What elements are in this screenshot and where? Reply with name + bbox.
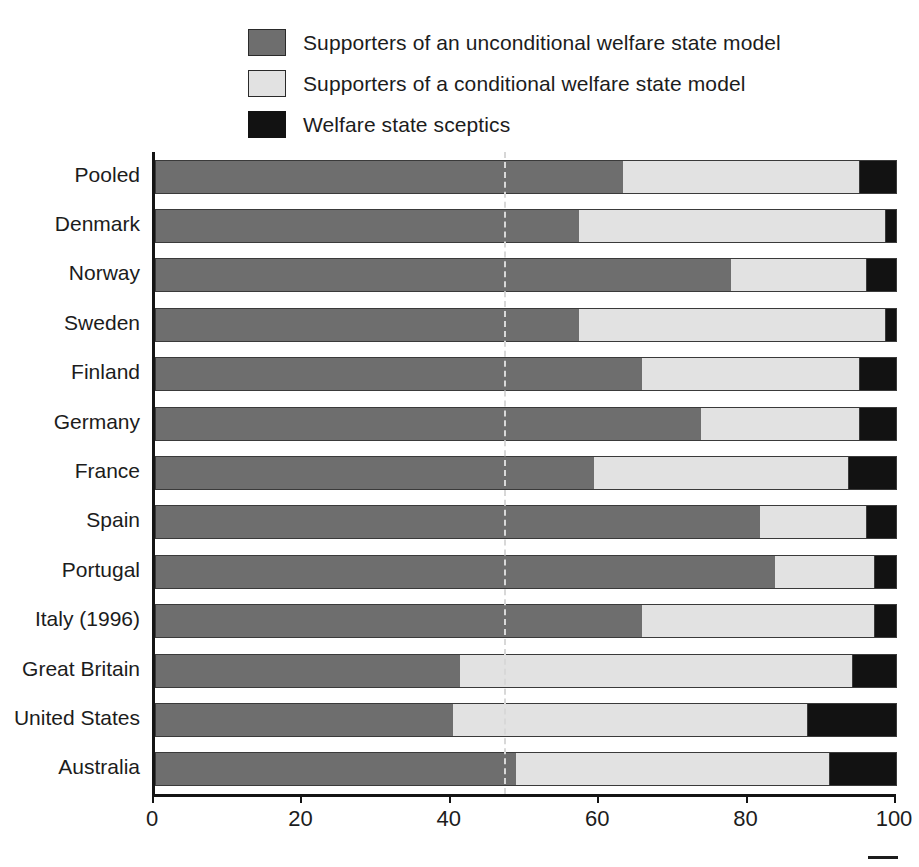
bar-segment-sceptics — [866, 506, 896, 538]
bar-segment-sceptics — [866, 259, 896, 291]
bar-segment-conditional — [459, 655, 851, 687]
x-tick-label: 0 — [146, 806, 158, 832]
bar-segment-sceptics — [859, 358, 896, 390]
bar-segment-conditional — [622, 161, 859, 193]
x-axis-line — [152, 794, 894, 797]
bar-segment-sceptics — [848, 457, 896, 489]
bar-row — [155, 407, 897, 441]
stacked-bars-group — [155, 152, 897, 794]
chart-legend: Supporters of an unconditional welfare s… — [248, 22, 888, 145]
bar-row — [155, 456, 897, 490]
legend-label-unconditional: Supporters of an unconditional welfare s… — [303, 31, 781, 55]
category-label: Portugal — [0, 558, 140, 582]
category-label: Germany — [0, 410, 140, 434]
bar-segment-sceptics — [807, 704, 896, 736]
bar-segment-unconditional — [156, 161, 622, 193]
bar-row — [155, 752, 897, 786]
bar-segment-unconditional — [156, 309, 578, 341]
category-label: Italy (1996) — [0, 607, 140, 631]
bar-segment-conditional — [730, 259, 867, 291]
category-label: Australia — [0, 755, 140, 779]
bar-row — [155, 308, 897, 342]
category-axis-labels: PooledDenmarkNorwaySwedenFinlandGermanyF… — [0, 152, 140, 794]
bar-segment-sceptics — [859, 161, 896, 193]
bar-segment-unconditional — [156, 457, 593, 489]
category-label: United States — [0, 706, 140, 730]
dark-gray-swatch-icon — [248, 29, 286, 56]
x-tick-label: 60 — [585, 806, 609, 832]
bar-segment-conditional — [759, 506, 866, 538]
bar-segment-unconditional — [156, 605, 641, 637]
bar-segment-sceptics — [885, 210, 896, 242]
bar-row — [155, 555, 897, 589]
x-tick-label: 20 — [288, 806, 312, 832]
page-rule — [868, 856, 898, 859]
bar-row — [155, 357, 897, 391]
category-label: Denmark — [0, 212, 140, 236]
x-tick-mark — [597, 794, 599, 803]
bar-segment-sceptics — [885, 309, 896, 341]
x-tick-mark — [152, 794, 154, 803]
x-tick-label: 40 — [437, 806, 461, 832]
legend-item-unconditional: Supporters of an unconditional welfare s… — [248, 22, 888, 63]
legend-label-sceptics: Welfare state sceptics — [303, 113, 510, 137]
bar-row — [155, 604, 897, 638]
bar-row — [155, 654, 897, 688]
bar-segment-unconditional — [156, 704, 452, 736]
bar-segment-conditional — [515, 753, 830, 785]
x-tick-mark — [894, 794, 896, 803]
bar-segment-unconditional — [156, 210, 578, 242]
bar-segment-conditional — [700, 408, 859, 440]
bar-segment-unconditional — [156, 506, 759, 538]
x-tick-mark — [449, 794, 451, 803]
category-label: France — [0, 459, 140, 483]
bar-row — [155, 160, 897, 194]
light-gray-swatch-icon — [248, 70, 286, 97]
bar-row — [155, 703, 897, 737]
bar-segment-sceptics — [852, 655, 896, 687]
bar-segment-conditional — [578, 309, 885, 341]
bar-segment-unconditional — [156, 408, 700, 440]
bar-row — [155, 505, 897, 539]
x-tick-label: 80 — [733, 806, 757, 832]
bar-segment-conditional — [641, 605, 874, 637]
category-label: Great Britain — [0, 657, 140, 681]
bar-row — [155, 258, 897, 292]
category-label: Norway — [0, 261, 140, 285]
bar-segment-conditional — [774, 556, 874, 588]
bar-segment-conditional — [578, 210, 885, 242]
bar-segment-sceptics — [874, 605, 896, 637]
bar-segment-unconditional — [156, 358, 641, 390]
bar-row — [155, 209, 897, 243]
x-tick-mark — [300, 794, 302, 803]
bar-segment-unconditional — [156, 655, 459, 687]
bar-segment-conditional — [593, 457, 848, 489]
category-label: Sweden — [0, 311, 140, 335]
bar-segment-unconditional — [156, 556, 774, 588]
legend-item-conditional: Supporters of a conditional welfare stat… — [248, 63, 888, 104]
category-label: Pooled — [0, 163, 140, 187]
bar-segment-unconditional — [156, 259, 730, 291]
legend-item-sceptics: Welfare state sceptics — [248, 104, 888, 145]
bar-segment-conditional — [452, 704, 807, 736]
bar-segment-sceptics — [874, 556, 896, 588]
bar-segment-sceptics — [829, 753, 896, 785]
category-label: Finland — [0, 360, 140, 384]
bar-segment-conditional — [641, 358, 859, 390]
black-swatch-icon — [248, 111, 286, 138]
plot-area — [152, 152, 897, 794]
x-tick-mark — [746, 794, 748, 803]
category-label: Spain — [0, 508, 140, 532]
bar-segment-unconditional — [156, 753, 515, 785]
legend-label-conditional: Supporters of a conditional welfare stat… — [303, 72, 745, 96]
x-tick-label: 100 — [876, 806, 913, 832]
bar-segment-sceptics — [859, 408, 896, 440]
